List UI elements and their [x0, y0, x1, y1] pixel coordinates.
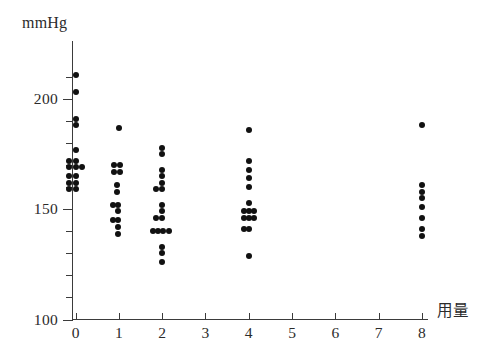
data-point [66, 164, 72, 170]
data-point [159, 215, 165, 221]
data-point [419, 215, 425, 221]
data-point [73, 89, 79, 95]
data-point [159, 180, 165, 186]
scatter-chart: mmHg 用量 100150200 012345678 [0, 0, 481, 364]
data-point [246, 184, 252, 190]
data-point [159, 259, 165, 265]
data-point [419, 189, 425, 195]
data-point [419, 182, 425, 188]
data-point [419, 233, 425, 239]
data-point [66, 173, 72, 179]
data-point [159, 173, 165, 179]
data-point [73, 158, 79, 164]
data-point [159, 167, 165, 173]
data-point [79, 164, 85, 170]
data-point [111, 162, 117, 168]
data-point [246, 226, 252, 232]
data-point [66, 186, 72, 192]
data-point [73, 147, 79, 153]
data-point [114, 182, 120, 188]
data-point [419, 195, 425, 201]
data-point [246, 253, 252, 259]
data-point [159, 244, 165, 250]
data-point [246, 175, 252, 181]
data-point [115, 231, 121, 237]
data-point [251, 208, 257, 214]
data-point [159, 202, 165, 208]
data-point [246, 158, 252, 164]
data-point [115, 224, 121, 230]
data-point [73, 72, 79, 78]
data-point [73, 186, 79, 192]
data-point [66, 180, 72, 186]
data-point [66, 158, 72, 164]
data-point [166, 228, 172, 234]
data-point [246, 200, 252, 206]
data-point [159, 208, 165, 214]
data-point [116, 125, 122, 131]
data-point [73, 173, 79, 179]
data-point [115, 217, 121, 223]
data-point [251, 215, 257, 221]
data-point [115, 208, 121, 214]
data-point [159, 145, 165, 151]
data-point [117, 169, 123, 175]
data-point [73, 116, 79, 122]
data-point [419, 204, 425, 210]
data-point [159, 186, 165, 192]
data-point [115, 202, 121, 208]
data-point [246, 167, 252, 173]
data-point [111, 169, 117, 175]
plot-area [0, 0, 481, 364]
data-point [73, 180, 79, 186]
data-point [246, 127, 252, 133]
data-point [73, 164, 79, 170]
data-point [159, 151, 165, 157]
data-point [419, 226, 425, 232]
data-point [117, 162, 123, 168]
data-point [159, 250, 165, 256]
data-point [114, 189, 120, 195]
data-point [73, 122, 79, 128]
data-point [419, 122, 425, 128]
